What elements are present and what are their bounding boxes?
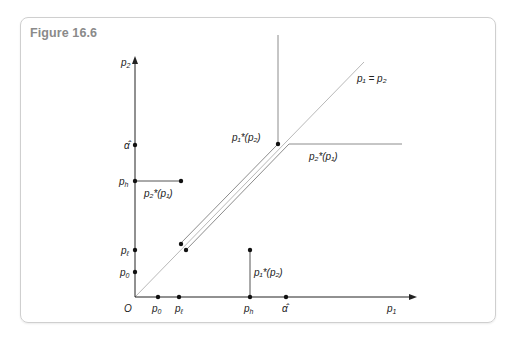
dot-diag-lower-1 [179,242,183,246]
br1-diagonal-segment [180,144,278,244]
dot-y-p0 [133,270,137,274]
y-tick-ph: ph [118,176,129,188]
dot-y-ph [133,179,137,183]
dot-y-pl [133,248,137,252]
origin-label: O [124,303,132,314]
y-axis-label: p2 [120,57,131,69]
dot-kink [276,142,280,146]
y-tick-pl: pℓ [120,245,130,257]
x-tick-ph: ph [243,303,254,315]
diagram-canvas: p2 p1 O α̂ ph pℓ p0 p0 pℓ ph α̂ p₁ = p₂ … [0,0,518,345]
br1-top-label: p₁*(p₂) [231,132,261,143]
br2-right-label: p₂*(p₁) [308,151,338,162]
x-axis-label: p1 [386,303,397,315]
dot-x-p0 [156,295,160,299]
diag-label: p₁ = p₂ [356,73,387,84]
dot-x-pl [177,295,181,299]
x-tick-pl: pℓ [174,303,184,315]
x-tick-p0: p0 [151,303,162,315]
y-tick-alpha: α̂ [124,140,132,151]
x-tick-alpha: α̂ [282,303,290,314]
br2-diagonal-segment [186,144,289,250]
dot-br1-end [248,248,252,252]
br1-bottom-label: p₁*(p₂) [253,267,283,278]
dot-br2-end [179,179,183,183]
dot-y-alpha [133,143,137,147]
dot-x-alpha [284,295,288,299]
y-tick-p0: p0 [119,267,130,279]
br2-left-label: p₂*(p₁) [143,188,173,199]
dot-diag-lower-2 [184,248,188,252]
dot-x-ph [248,295,252,299]
